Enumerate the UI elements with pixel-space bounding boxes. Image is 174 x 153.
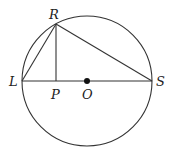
chord-lr — [22, 24, 56, 81]
label-s: S — [156, 74, 165, 89]
chord-rs — [56, 24, 152, 81]
label-o: O — [82, 87, 93, 102]
label-l: L — [8, 74, 18, 89]
label-r: R — [48, 7, 59, 22]
center-dot-o — [84, 78, 90, 84]
label-p: P — [50, 87, 60, 102]
geometry-diagram: R L P O S — [0, 0, 174, 153]
